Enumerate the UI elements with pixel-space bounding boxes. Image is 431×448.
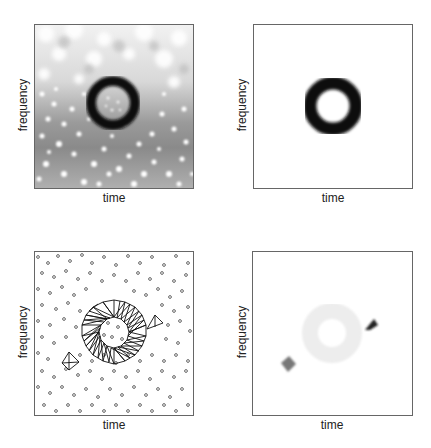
noisy-spectrogram [34, 24, 194, 189]
detected-components [252, 251, 413, 416]
y-axis-label: frequency [16, 282, 30, 382]
x-axis-label: time [34, 418, 194, 432]
panel-top-right [253, 24, 413, 189]
panel-top-left [34, 24, 194, 189]
y-axis-label: frequency [235, 55, 249, 155]
panel-bottom-right [252, 251, 413, 416]
y-axis-label: frequency [235, 282, 249, 382]
denoised-spectrogram [253, 24, 413, 189]
zeros-triangulation [34, 251, 194, 416]
y-axis-label: frequency [16, 55, 30, 155]
panel-bottom-left [34, 251, 194, 416]
x-axis-label: time [34, 191, 194, 205]
x-axis-label: time [252, 418, 412, 432]
x-axis-label: time [253, 191, 413, 205]
